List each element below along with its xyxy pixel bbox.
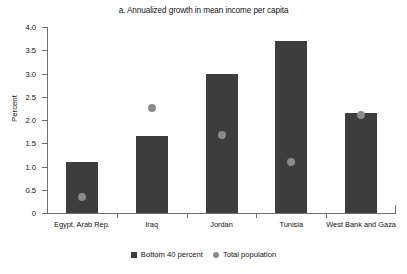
x-axis-tick — [256, 213, 257, 218]
y-axis-tick — [42, 190, 47, 191]
legend-square-icon — [131, 252, 137, 258]
y-axis-tick — [42, 97, 47, 98]
y-axis-tick — [42, 50, 47, 51]
x-axis-tick — [187, 213, 188, 218]
legend-label-bottom-40: Bottom 40 percent — [141, 250, 203, 259]
bar — [206, 74, 238, 214]
y-axis-tick-label: 3.5 — [0, 46, 36, 55]
x-axis-tick — [326, 213, 327, 218]
y-axis-tick — [42, 167, 47, 168]
x-axis-category-label: Jordan — [187, 220, 257, 229]
chart-container: a. Annualized growth in mean income per … — [0, 0, 407, 274]
x-axis-line — [47, 213, 396, 214]
y-axis-tick-label: 1.5 — [0, 139, 36, 148]
x-axis-category-label: Iraq — [117, 220, 187, 229]
y-axis-tick-label: 0.5 — [0, 185, 36, 194]
y-axis-tick-label: 2.5 — [0, 92, 36, 101]
y-axis-line — [47, 27, 48, 213]
y-axis-tick-label: 1.0 — [0, 162, 36, 171]
y-axis-tick — [42, 74, 47, 75]
x-axis-category-label: Egypt, Arab Rep. — [47, 220, 117, 229]
bar — [136, 136, 168, 213]
y-axis-tick-label: 0 — [0, 209, 36, 218]
data-point-dot — [218, 131, 226, 139]
bar — [66, 162, 98, 213]
y-axis-tick-label: 2.0 — [0, 116, 36, 125]
legend-circle-icon — [213, 252, 219, 258]
bar — [275, 41, 307, 213]
y-axis-tick-label: 4.0 — [0, 23, 36, 32]
legend-item-total-population: Total population — [213, 250, 276, 259]
x-axis-category-label: West Bank and Gaza — [326, 220, 396, 229]
legend-label-total-population: Total population — [223, 250, 276, 259]
data-point-dot — [78, 193, 86, 201]
x-axis-category-label: Tunisia — [256, 220, 326, 229]
legend-item-bottom-40: Bottom 40 percent — [131, 250, 203, 259]
y-axis-tick — [42, 143, 47, 144]
y-axis-tick-label: 3.0 — [0, 69, 36, 78]
chart-legend: Bottom 40 percent Total population — [0, 250, 407, 259]
y-axis-tick — [42, 213, 47, 214]
y-axis-tick — [42, 27, 47, 28]
y-axis-tick — [42, 120, 47, 121]
x-axis-tick — [117, 213, 118, 218]
axis-right-stub — [395, 205, 396, 214]
chart-title: a. Annualized growth in mean income per … — [0, 6, 407, 15]
data-point-dot — [148, 104, 156, 112]
bar — [345, 113, 377, 213]
